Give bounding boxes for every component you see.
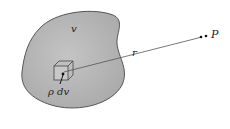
point-p-dot-2 [205,35,208,38]
distance-label: r [132,48,137,58]
point-p-dot [200,36,203,39]
point-label: P [211,29,218,40]
diagram-canvas [0,0,230,129]
volume-label: v [71,24,77,34]
element-dot [62,73,65,76]
element-label: ρ dv [48,87,69,97]
